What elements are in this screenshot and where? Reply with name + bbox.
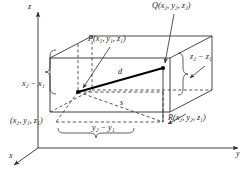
leader-arrow-Q: [165, 14, 174, 63]
segment-label-d: d: [118, 68, 122, 76]
leader-arrow-P: [83, 47, 110, 88]
axis-label-z: z: [28, 3, 31, 11]
segment-label-s: s: [120, 99, 123, 107]
point-label-Q: Q(x₂, y₂, z₂): [152, 2, 191, 10]
dimension-label-x-extent: x₂ − x₁: [22, 80, 45, 88]
dimension-label-y-extent: y₂ − y₁: [92, 124, 115, 132]
point-label-R: R(x₂, y₂, z₁): [168, 114, 206, 122]
axis-label-y: y: [236, 150, 240, 158]
brace-z-extent: [178, 53, 188, 95]
distance-formula-3d-figure: z y x P(x₁, y₁, z₁) Q(x₂, y₂, z₂) R(x₂, …: [0, 0, 252, 170]
point-label-origin-corner: (x₂, y₁, z₁): [10, 117, 43, 125]
axis-x: [14, 148, 38, 165]
brace-x-extent: [45, 50, 56, 94]
box-front-face: [50, 58, 170, 112]
leader-arrow-z-extent: [190, 66, 205, 78]
point-label-P: P(x₁, y₁, z₁): [88, 35, 126, 43]
axis-label-x: x: [9, 152, 13, 160]
dimension-label-z-extent: z₂ − z₁: [190, 53, 212, 61]
